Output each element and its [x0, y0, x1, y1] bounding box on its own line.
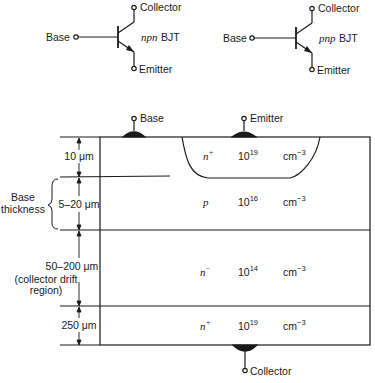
npn-symbol	[74, 5, 136, 70]
base-thickness: 5–20 μm	[58, 198, 99, 210]
svg-text:n+: n+	[203, 148, 214, 162]
npn-type-label: npn	[141, 31, 158, 43]
collector-contact-label: Collector	[250, 365, 292, 377]
base-contact-terminal	[132, 116, 136, 120]
contacts	[123, 116, 257, 372]
npn-collector-terminal	[132, 5, 136, 9]
npn-base-terminal	[74, 35, 78, 39]
svg-text:cm−3: cm−3	[283, 148, 306, 162]
drift-thickness: 50–200 μm	[46, 260, 99, 272]
pnp-emitter-terminal	[310, 67, 314, 71]
dimension-arrows	[77, 138, 81, 345]
cross-section	[60, 137, 370, 345]
npn-emitter-label: Emitter	[139, 63, 173, 75]
pnp-collector-terminal	[310, 6, 314, 10]
npn-base-label: Base	[46, 31, 70, 43]
collector-contact-terminal	[243, 368, 247, 372]
svg-text:1014: 1014	[238, 264, 258, 278]
layer-base-labels: p 1016 cm−3	[202, 194, 306, 208]
base-top-ref-line	[60, 176, 170, 177]
svg-text:n−: n−	[200, 264, 211, 278]
svg-text:1016: 1016	[238, 194, 258, 208]
base-contact	[123, 132, 145, 137]
layer-emitter-labels: n+ 1019 cm−3	[203, 148, 306, 162]
base-thickness-brace	[48, 179, 58, 229]
collector-contact	[233, 345, 257, 351]
base-contact-label: Base	[140, 112, 164, 124]
layer-substrate-labels: n+ 1019 cm−3	[200, 318, 306, 332]
pnp-bjt-label: BJT	[339, 32, 358, 44]
emitter-contact	[232, 132, 256, 137]
svg-text:1019: 1019	[238, 318, 258, 332]
pnp-type-label: pnp	[318, 32, 336, 44]
emitter-thickness: 10 μm	[64, 150, 94, 162]
device-outline	[100, 137, 370, 345]
base-thickness-label-line2: thickness	[1, 203, 45, 215]
bjt-diagram: Base Collector Emitter npn BJT Base Coll…	[0, 0, 375, 383]
emitter-contact-terminal	[242, 116, 246, 120]
layer-drift-labels: n− 1014 cm−3	[200, 264, 306, 278]
svg-text:cm−3: cm−3	[283, 264, 306, 278]
svg-text:p: p	[202, 196, 209, 208]
pnp-emitter-label: Emitter	[317, 64, 351, 76]
npn-emitter-terminal	[132, 66, 136, 70]
svg-text:n+: n+	[200, 318, 211, 332]
base-thickness-label-line1: Base	[11, 191, 35, 203]
npn-collector-label: Collector	[140, 1, 182, 13]
npn-emitter-arrow-icon	[126, 45, 134, 52]
npn-bjt-label: BJT	[161, 31, 180, 43]
pnp-emitter-arrow-icon	[304, 46, 312, 53]
pnp-base-terminal	[250, 36, 254, 40]
substrate-thickness: 250 μm	[61, 319, 96, 331]
emitter-contact-label: Emitter	[250, 112, 284, 124]
drift-label-line2: region)	[30, 284, 63, 296]
svg-text:cm−3: cm−3	[283, 318, 306, 332]
pnp-collector-label: Collector	[318, 2, 360, 14]
pnp-base-label: Base	[223, 32, 247, 44]
svg-text:1019: 1019	[238, 148, 258, 162]
pnp-symbol	[250, 6, 314, 71]
svg-text:cm−3: cm−3	[283, 194, 306, 208]
